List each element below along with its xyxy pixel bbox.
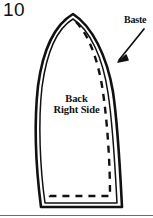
baste-leader-line	[119, 29, 144, 60]
pattern-piece-label: Back Right Side	[0, 93, 153, 115]
bottom-divider-rule	[0, 215, 153, 216]
figure-panel: 10 Baste Back Right Side	[0, 0, 153, 218]
pattern-piece-label-line-1: Back	[0, 93, 153, 104]
figure-number: 10	[3, 0, 25, 20]
baste-label: Baste	[124, 15, 146, 26]
pattern-piece-label-line-2: Right Side	[0, 104, 153, 115]
